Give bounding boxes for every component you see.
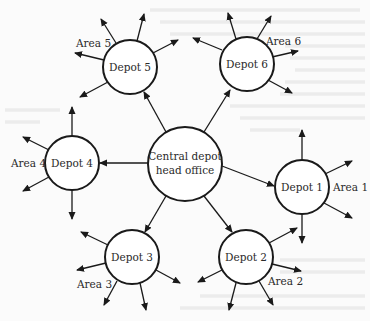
depot-node-2: Depot 2 [219,230,273,284]
central-depot-label-line2: head office [156,164,215,176]
depot-label: Depot 6 [226,58,268,70]
arrow-to-depot1 [222,166,274,186]
area-label-5: Area 5 [75,37,111,49]
arrow-to-depot5 [144,92,166,132]
depot-node-1: Depot 1 [275,160,329,214]
area-label-1: Area 1 [332,181,368,193]
depot-node-3: Depot 3 [105,230,159,284]
distribution-network-diagram: Central depot head office Depot 1 Depot … [0,0,370,321]
area-label-3: Area 3 [76,278,112,290]
arrow-to-depot3 [145,196,166,232]
depot-label: Depot 4 [51,157,93,169]
central-depot-label-line1: Central depot [148,150,222,162]
arrow-to-depot6 [204,90,230,132]
depot-label: Depot 2 [225,251,267,263]
depot-label: Depot 1 [281,181,323,193]
arrow-to-depot2 [204,196,232,232]
central-depot-node: Central depot head office [148,127,222,201]
depot-label: Depot 3 [111,251,153,263]
area-label-6: Area 6 [265,35,301,47]
area-label-4: Area 4 [10,157,46,169]
depot-label: Depot 5 [109,61,151,73]
area-label-2: Area 2 [267,275,303,287]
depot-node-4: Depot 4 [45,136,99,190]
